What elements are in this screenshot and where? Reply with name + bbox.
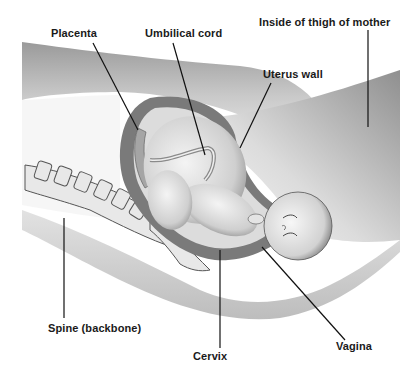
- label-cervix: Cervix: [193, 350, 227, 362]
- label-vagina: Vagina: [336, 340, 372, 352]
- label-uterus-wall: Uterus wall: [263, 68, 323, 80]
- label-placenta: Placenta: [51, 27, 97, 39]
- label-spine: Spine (backbone): [48, 322, 141, 334]
- birth-position-diagram: Placenta Umbilical cord Inside of thigh …: [0, 0, 420, 382]
- baby-head: [264, 192, 332, 260]
- label-inside-of-thigh: Inside of thigh of mother: [259, 16, 390, 28]
- label-umbilical-cord: Umbilical cord: [145, 27, 222, 39]
